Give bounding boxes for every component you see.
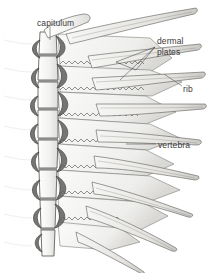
matrix-stipple bbox=[2, 28, 36, 262]
label-dermal-plates-line2: plates bbox=[157, 47, 180, 57]
column-stipple bbox=[36, 30, 60, 258]
label-dermal-plates-line1: dermal bbox=[157, 36, 184, 46]
label-capitulum: capitulum bbox=[37, 18, 74, 28]
label-vertebra: vertebra bbox=[158, 140, 190, 150]
label-dermal-plates: dermal plates bbox=[157, 36, 184, 57]
label-rib: rib bbox=[183, 84, 193, 94]
